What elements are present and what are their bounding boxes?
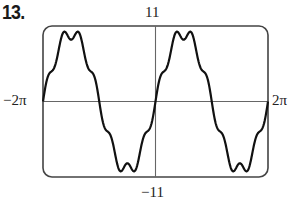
x-max-label: 2π <box>272 92 287 109</box>
graph <box>0 0 295 209</box>
y-max-label: 11 <box>145 4 159 21</box>
y-min-label: −11 <box>141 184 164 201</box>
x-min-label: −2π <box>3 92 27 109</box>
